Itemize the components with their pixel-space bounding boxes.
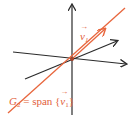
span-vector-symbol: v [60,95,65,107]
vector-v1-arrow [72,29,105,59]
vector-subscript: 1 [85,36,89,44]
span-text: = span { [20,95,60,107]
vector-v1-label: →v1 [80,26,88,44]
span-vector-arrow-glyph: → [60,87,68,96]
subspace-diagram: →v1 G2 = span {→v1} [0,0,134,117]
span-label: G2 = span {→v1} [9,95,74,109]
span-close-brace: } [69,95,74,107]
subspace-name: G [9,95,17,107]
vector-arrow-glyph: → [80,22,88,31]
origin-point [70,57,74,61]
